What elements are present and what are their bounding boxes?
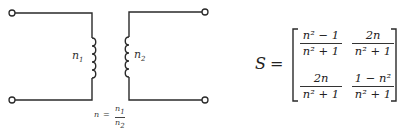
matrix-symbol: S [255, 54, 266, 73]
primary-turns-label: n1 [72, 49, 84, 64]
cell-11-numerator: n² − 1 [300, 29, 342, 44]
ratio-equals: = [103, 110, 110, 119]
cell-12-numerator: 2n [352, 29, 394, 44]
matrix-lhs: S= [255, 54, 283, 73]
matrix-cell-22: 1 − n² n² + 1 [352, 72, 394, 101]
ratio-lhs: n [94, 110, 99, 119]
ratio-denominator: n2 [115, 118, 125, 128]
primary-winding [15, 13, 96, 100]
cell-12-denominator: n² + 1 [352, 44, 394, 58]
terminal-secondary-bottom [202, 97, 208, 103]
cell-11-denominator: n² + 1 [300, 44, 342, 58]
matrix-cell-21: 2n n² + 1 [300, 72, 342, 101]
ratio-numerator: n1 [115, 104, 125, 118]
matrix-equals: = [270, 54, 283, 73]
terminal-primary-top [9, 10, 15, 16]
cell-21-numerator: 2n [300, 72, 342, 87]
primary-label-text: n1 [72, 49, 84, 62]
scattering-matrix: S= n² − 1 n² + 1 2n n² + 1 2n n² + 1 1 −… [255, 28, 405, 104]
secondary-label-text: n2 [134, 48, 146, 61]
ratio-fraction: n1 n2 [115, 104, 125, 128]
matrix-cell-12: 2n n² + 1 [352, 29, 394, 58]
cell-22-denominator: n² + 1 [352, 87, 394, 101]
terminal-secondary-top [202, 9, 208, 15]
cell-21-denominator: n² + 1 [300, 87, 342, 101]
terminal-primary-bottom [9, 97, 15, 103]
matrix-cell-11: n² − 1 n² + 1 [300, 29, 342, 58]
secondary-turns-label: n2 [134, 48, 146, 63]
cell-22-numerator: 1 − n² [352, 72, 394, 87]
turns-ratio-label: n = n1 n2 [94, 104, 134, 126]
